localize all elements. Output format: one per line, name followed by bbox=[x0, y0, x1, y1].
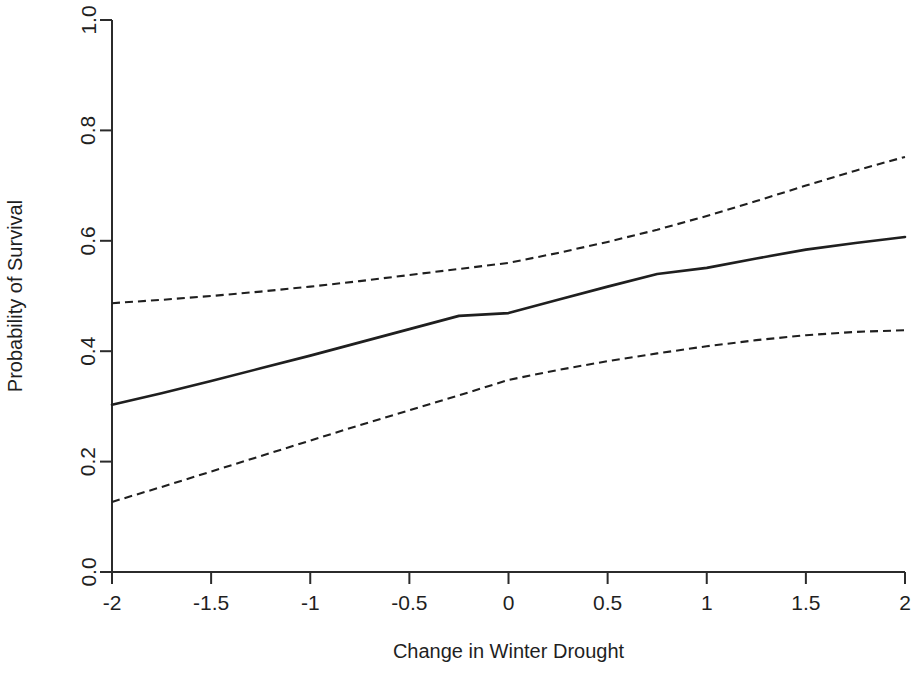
x-axis-title: Change in Winter Drought bbox=[393, 640, 625, 662]
x-tick-label-0.5: 0.5 bbox=[593, 591, 622, 614]
x-tick-label-0: 0 bbox=[503, 591, 515, 614]
y-tick-label-1.0: 1.0 bbox=[77, 5, 100, 34]
x-tick-label--2: -2 bbox=[103, 591, 122, 614]
series-line-1 bbox=[112, 157, 905, 303]
x-tick-label--1: -1 bbox=[301, 591, 320, 614]
data-series-group bbox=[112, 157, 905, 502]
series-line-2 bbox=[112, 330, 905, 502]
x-axis: -2-1.5-1-0.500.511.52 bbox=[103, 572, 911, 614]
y-tick-label-0.0: 0.0 bbox=[77, 557, 100, 586]
x-tick-label-2: 2 bbox=[899, 591, 911, 614]
y-tick-label-0.6: 0.6 bbox=[77, 226, 100, 255]
x-axis-ticks bbox=[112, 572, 905, 584]
y-axis: 0.00.20.40.60.81.0 bbox=[77, 5, 113, 586]
y-axis-ticks bbox=[100, 20, 112, 572]
x-tick-label--1.5: -1.5 bbox=[193, 591, 229, 614]
x-tick-label-1: 1 bbox=[701, 591, 713, 614]
y-axis-title: Probability of Survival bbox=[4, 200, 26, 392]
x-axis-tick-labels: -2-1.5-1-0.500.511.52 bbox=[103, 591, 911, 614]
chart-figure: 0.00.20.40.60.81.0 -2-1.5-1-0.500.511.52… bbox=[0, 0, 913, 676]
probability-of-survival-plot: 0.00.20.40.60.81.0 -2-1.5-1-0.500.511.52… bbox=[0, 0, 913, 676]
x-tick-label-1.5: 1.5 bbox=[791, 591, 820, 614]
series-line-0 bbox=[112, 237, 905, 405]
y-axis-tick-labels: 0.00.20.40.60.81.0 bbox=[77, 5, 100, 586]
x-tick-label--0.5: -0.5 bbox=[391, 591, 427, 614]
y-tick-label-0.8: 0.8 bbox=[77, 116, 100, 145]
y-tick-label-0.4: 0.4 bbox=[77, 336, 100, 366]
y-tick-label-0.2: 0.2 bbox=[77, 447, 100, 476]
